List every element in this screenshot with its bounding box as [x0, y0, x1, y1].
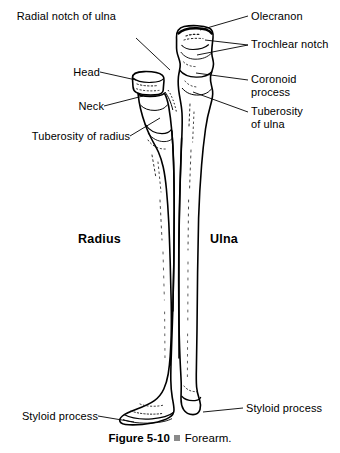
- leader-neck: [104, 96, 143, 106]
- label-text: Radial notch of ulna: [17, 10, 116, 22]
- label-text: Head: [73, 66, 100, 78]
- label-text-line2: process: [251, 86, 290, 98]
- leader-head: [100, 72, 136, 80]
- bone-name-radius: Radius: [78, 232, 121, 246]
- label-neck: Neck: [0, 100, 104, 113]
- bone-name-ulna: Ulna: [210, 232, 238, 246]
- ulna-bone: [176, 26, 213, 415]
- label-text: Olecranon: [251, 10, 303, 22]
- leader-radial-notch: [136, 38, 170, 70]
- label-text: Neck: [79, 100, 104, 112]
- figure-caption: Figure 5-10Forearm.: [0, 432, 340, 444]
- label-radial-notch-of-ulna: Radial notch of ulna: [0, 10, 116, 23]
- radius-bone: [120, 72, 177, 425]
- label-text: Tuberosity of radius: [32, 130, 130, 142]
- figure-forearm: Radial notch of ulna Head Neck Tuberosit…: [0, 0, 340, 453]
- label-styloid-process-radius: Styloid process: [0, 410, 98, 423]
- label-olecranon: Olecranon: [251, 10, 303, 23]
- label-tuberosity-of-ulna: Tuberosityof ulna: [251, 105, 303, 131]
- square-bullet-icon: [174, 435, 180, 441]
- label-styloid-process-ulna: Styloid process: [246, 402, 322, 415]
- label-tuberosity-of-radius: Tuberosity of radius: [0, 130, 130, 143]
- label-text-line2: of ulna: [251, 118, 285, 130]
- label-text: Styloid process: [246, 402, 322, 414]
- label-coronoid-process: Coronoidprocess: [251, 73, 296, 99]
- label-trochlear-notch: Trochlear notch: [251, 38, 329, 51]
- label-head: Head: [0, 66, 100, 79]
- label-text-line1: Coronoid: [251, 73, 296, 85]
- figure-title: Forearm.: [185, 432, 232, 444]
- figure-number: Figure 5-10: [108, 432, 169, 444]
- label-text-line1: Tuberosity: [251, 105, 303, 117]
- label-text: Styloid process: [22, 410, 98, 422]
- leader-olecranon: [200, 16, 248, 30]
- label-text: Trochlear notch: [251, 38, 329, 50]
- leader-styloid-ulna: [203, 408, 243, 412]
- radial-head: [133, 72, 165, 95]
- ulna-outline: [176, 26, 213, 415]
